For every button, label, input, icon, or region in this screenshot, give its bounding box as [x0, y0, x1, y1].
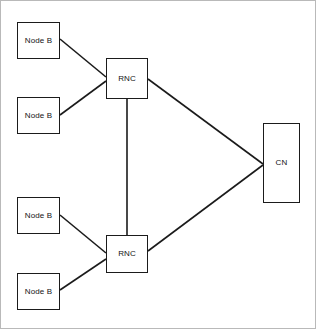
edge-nodeb2-rnc1 — [60, 81, 106, 115]
node-b-box-2: Node B — [17, 97, 60, 134]
node-b-label-1: Node B — [25, 37, 52, 45]
node-b-box-3: Node B — [17, 197, 60, 234]
cn-label: CN — [276, 159, 288, 167]
rnc-box-1: RNC — [106, 58, 148, 99]
edge-rnc2-cn — [148, 165, 263, 251]
rnc-label-1: RNC — [118, 75, 136, 83]
edge-nodeb4-rnc2 — [60, 259, 106, 290]
rnc-box-2: RNC — [106, 235, 148, 273]
node-b-label-4: Node B — [25, 288, 52, 296]
rnc-label-2: RNC — [118, 250, 136, 258]
network-diagram: Node B Node B Node B Node B RNC RNC CN — [0, 0, 316, 329]
node-b-label-2: Node B — [25, 112, 52, 120]
node-b-box-4: Node B — [17, 273, 60, 310]
edge-rnc1-cn — [148, 79, 263, 164]
node-b-box-1: Node B — [17, 22, 60, 59]
node-b-label-3: Node B — [25, 212, 52, 220]
edge-nodeb1-rnc1 — [60, 39, 106, 77]
edge-nodeb3-rnc2 — [60, 215, 106, 253]
cn-box: CN — [263, 123, 300, 203]
